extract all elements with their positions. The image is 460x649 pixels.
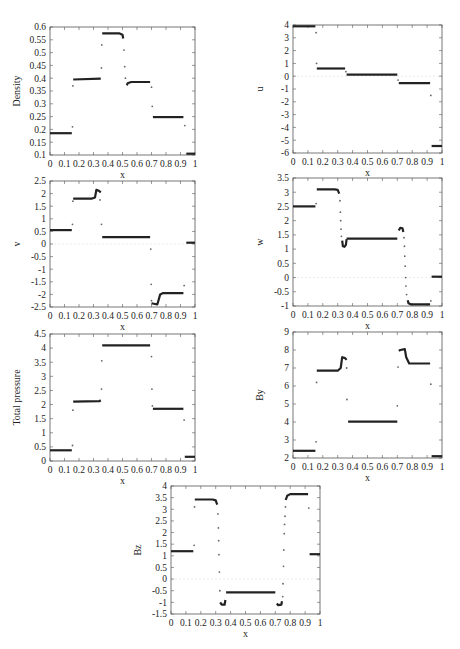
data-point [101,223,103,225]
x-tick-label: 0.5 [117,311,129,321]
data-point [194,506,196,508]
plot-frame [171,486,320,614]
x-tick-label: 0.1 [59,465,71,475]
data-point [101,388,103,390]
data-point [404,245,406,247]
data-point [101,67,103,69]
y-tick-label: -0.5 [152,586,167,596]
data-point [151,105,153,107]
y-tick-label: 4 [284,417,289,427]
y-tick-label: 0.4 [34,74,46,84]
y-tick-label: 7 [284,363,289,373]
x-tick-label: 0.1 [180,618,192,628]
x-tick-label: 0.7 [146,311,158,321]
x-tick-label: 0 [48,465,53,475]
y-tick-label: 0.15 [29,138,46,148]
data-series [408,300,430,304]
y-tick-label: 3 [41,372,46,382]
y-tick-label: -5 [281,136,289,146]
plot-frame [293,25,442,153]
x-tick-label: 0.3 [210,618,222,628]
x-tick-label: 0.6 [376,462,388,472]
x-tick-label: 0.2 [317,157,329,167]
data-point [308,507,310,509]
x-tick-label: 0.6 [131,159,143,169]
y-tick-label: 2 [284,46,289,56]
x-axis-label: x [120,475,125,486]
data-point [397,366,399,368]
panel-density: 00.10.20.30.40.50.60.70.80.910.10.150.20… [11,22,198,180]
data-point [316,63,318,65]
data-point [403,237,405,239]
data-point [282,583,284,585]
y-tick-label: 1 [284,244,289,254]
y-tick-label: 1.5 [277,230,289,240]
data-point [183,285,185,287]
data-point [283,549,285,551]
panel-bz: 00.10.20.30.40.50.60.70.80.91-1.5-1-0.50… [132,481,323,639]
y-tick-label: 1 [284,59,289,69]
y-tick-label: -1.5 [152,609,167,619]
y-tick-label: 0 [284,72,289,82]
x-tick-label: 1 [440,310,445,320]
data-point [123,49,125,51]
y-tick-label: -1.5 [31,277,46,287]
x-tick-label: 0.4 [102,311,114,321]
data-point [406,294,408,296]
y-tick-label: 4 [162,481,167,491]
x-tick-label: 0.7 [391,157,403,167]
x-tick-label: 0.9 [421,462,433,472]
data-series [152,293,184,304]
data-point [341,235,343,237]
data-point [218,554,220,556]
data-point [72,445,74,447]
y-tick-label: 0.55 [29,35,46,45]
panel-v: 00.10.20.30.40.50.60.70.80.91-2.5-2-1.5-… [11,176,198,332]
data-series [102,33,123,38]
data-point [340,228,342,230]
y-tick-label: 5 [284,399,289,409]
data-point [151,356,153,358]
x-tick-label: 0.3 [332,310,344,320]
data-point [151,86,153,88]
x-tick-label: 0.1 [59,159,71,169]
x-tick-label: 0.5 [117,465,129,475]
data-point [193,544,195,546]
x-tick-label: 0.1 [302,157,314,167]
x-tick-label: 0.3 [88,159,100,169]
y-tick-label: 0.5 [277,259,289,269]
plot-frame [50,27,195,155]
data-point [346,367,348,369]
y-tick-label: -0.5 [274,287,289,297]
y-tick-label: 0.6 [34,22,46,32]
x-tick-label: 0.7 [391,310,403,320]
x-tick-label: 0.9 [175,311,187,321]
x-tick-label: 0.8 [160,159,172,169]
x-tick-label: 0.8 [160,311,172,321]
data-point [339,211,341,213]
x-tick-label: 0.2 [73,159,85,169]
x-tick-label: 0 [48,159,53,169]
data-point [405,285,407,287]
x-tick-label: 0.5 [117,159,129,169]
x-tick-label: 1 [193,465,198,475]
x-tick-label: 0.7 [391,462,403,472]
data-point [72,200,74,202]
x-tick-label: 0.4 [102,465,114,475]
data-point [404,265,406,267]
x-tick-label: 0.8 [406,310,418,320]
data-point [285,506,287,508]
y-tick-label: 0.3 [34,99,46,109]
data-point [101,360,103,362]
data-point [219,590,221,592]
x-tick-label: 0.6 [131,311,143,321]
x-tick-label: 1 [440,157,445,167]
x-tick-label: 0.3 [88,465,100,475]
y-tick-label: 0 [41,239,46,249]
y-tick-label: -2.5 [31,302,46,312]
x-axis-label: x [365,472,370,483]
y-tick-label: -1 [159,598,167,608]
data-point [430,300,432,302]
y-axis-label: Bz [132,544,143,556]
x-tick-label: 1 [440,462,445,472]
